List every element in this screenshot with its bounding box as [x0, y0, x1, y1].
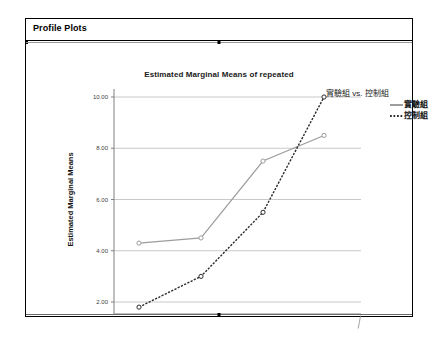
y-axis-tick-label: 6.00: [96, 197, 108, 203]
gridlines: [114, 97, 361, 302]
legend-label-experimental: 實驗組: [404, 99, 428, 110]
series-line-experimental: [139, 135, 324, 243]
profile-plots-output-panel: Profile Plots Estimated Marginal Means o…: [25, 18, 413, 317]
y-axis-tick-label: 2.00: [96, 299, 108, 305]
chart-container: Estimated Marginal Means of repeated 2.0…: [26, 44, 412, 316]
data-point-marker: [261, 159, 265, 163]
y-axis-title: Estimated Marginal Means: [66, 152, 75, 246]
axes: [111, 89, 361, 314]
data-point-marker: [137, 241, 141, 245]
profile-plot-svg: 2.004.006.008.0010.00 1234 Estimated Mar…: [26, 44, 414, 316]
data-point-marker: [199, 236, 203, 240]
legend-swatch-dashed-line-icon: [390, 115, 403, 117]
y-axis-tick-label: 4.00: [96, 248, 108, 254]
y-axis-tick-labels: 2.004.006.008.0010.00: [93, 94, 109, 305]
data-point-marker: [199, 274, 203, 278]
legend-swatch-solid-line-icon: [390, 104, 403, 106]
axis-titles: Estimated Marginal Meanstime: [66, 152, 245, 316]
y-axis-tick-label: 10.00: [93, 94, 109, 100]
legend: 實驗組 vs. 控制組 實驗組 控制組: [326, 88, 436, 121]
legend-label-control: 控制組: [404, 110, 428, 121]
data-series: [137, 95, 326, 309]
y-axis-tick-label: 8.00: [96, 145, 108, 151]
data-point-marker: [137, 305, 141, 309]
panel-header: Profile Plots: [26, 19, 412, 41]
annotation-pen-mark: [356, 315, 362, 329]
output-selection-rail-bottom: [26, 313, 412, 316]
legend-item-experimental: 實驗組: [326, 99, 436, 110]
legend-title: 實驗組 vs. 控制組: [326, 88, 436, 99]
data-point-marker: [322, 133, 326, 137]
rail-handle-dot[interactable]: [218, 313, 221, 316]
series-line-control: [139, 97, 324, 307]
data-point-marker: [261, 210, 265, 214]
page-title: Profile Plots: [33, 23, 87, 33]
legend-item-control: 控制組: [326, 110, 436, 121]
